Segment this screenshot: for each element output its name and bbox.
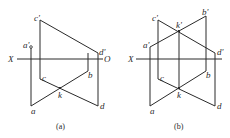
- label-d: d: [100, 101, 105, 111]
- label-a-prime: a': [143, 40, 151, 50]
- label-k: k: [58, 90, 63, 100]
- diagram-b: X c' k' b' a' d' c b k a d (b): [127, 7, 225, 131]
- label-k-prime: k': [176, 20, 183, 30]
- point-k-prime: [178, 30, 180, 32]
- label-b: b: [206, 70, 211, 80]
- caption-b: (b): [174, 122, 184, 131]
- label-d-prime: d': [99, 47, 107, 57]
- label-k: k: [177, 90, 182, 100]
- point-a-prime: [30, 46, 33, 49]
- point-k: [59, 87, 61, 89]
- label-d: d: [217, 101, 222, 111]
- label-b-prime: b': [202, 7, 210, 17]
- label-b: b: [88, 70, 93, 80]
- caption-a: (a): [56, 122, 65, 131]
- diagram-a: X O c' a' d' c b k a d (a): [7, 13, 111, 131]
- label-a-prime: a': [23, 40, 31, 50]
- label-c: c: [160, 73, 164, 83]
- axis-label-x: X: [7, 54, 14, 64]
- axis-label-x: X: [127, 54, 134, 64]
- label-a: a: [31, 106, 36, 116]
- label-a: a: [150, 106, 155, 116]
- line-c-prime-d-prime: [40, 20, 98, 53]
- label-c: c: [42, 73, 46, 83]
- projection-diagrams: X O c' a' d' c b k a d (a) X: [0, 0, 230, 138]
- point-k: [178, 87, 180, 89]
- label-d-prime: d': [217, 47, 225, 57]
